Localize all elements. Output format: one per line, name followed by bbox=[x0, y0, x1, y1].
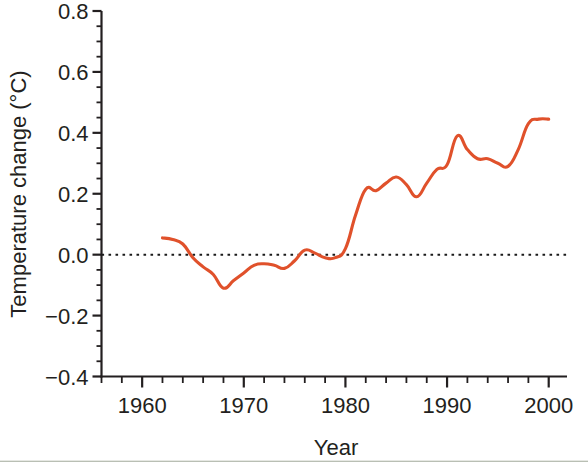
temperature-change-line-chart: −0.4−0.20.00.20.40.60.8 1960197019801990… bbox=[0, 0, 588, 462]
chart-figure: −0.4−0.20.00.20.40.60.8 1960197019801990… bbox=[0, 0, 588, 462]
y-tick-label-2: 0.0 bbox=[58, 243, 89, 268]
y-axis-tick-labels: −0.4−0.20.00.20.40.60.8 bbox=[45, 0, 88, 390]
y-tick-label-0: −0.4 bbox=[45, 365, 88, 390]
x-tick-label-1: 1970 bbox=[219, 393, 268, 418]
temperature-series-line bbox=[162, 119, 548, 289]
x-axis-tick-labels: 19601970198019902000 bbox=[118, 393, 574, 418]
y-tick-label-4: 0.4 bbox=[58, 121, 89, 146]
x-axis-title: Year bbox=[314, 435, 358, 460]
y-tick-label-5: 0.6 bbox=[58, 60, 89, 85]
x-tick-label-2: 1980 bbox=[321, 393, 370, 418]
x-tick-label-0: 1960 bbox=[118, 393, 167, 418]
x-tick-label-3: 1990 bbox=[423, 393, 472, 418]
y-tick-label-3: 0.2 bbox=[58, 182, 89, 207]
y-axis-major-ticks bbox=[93, 11, 102, 377]
y-tick-label-6: 0.8 bbox=[58, 0, 89, 24]
y-tick-label-1: −0.2 bbox=[45, 304, 88, 329]
y-axis-title: Temperature change (°C) bbox=[6, 70, 31, 317]
x-tick-label-4: 2000 bbox=[524, 393, 573, 418]
